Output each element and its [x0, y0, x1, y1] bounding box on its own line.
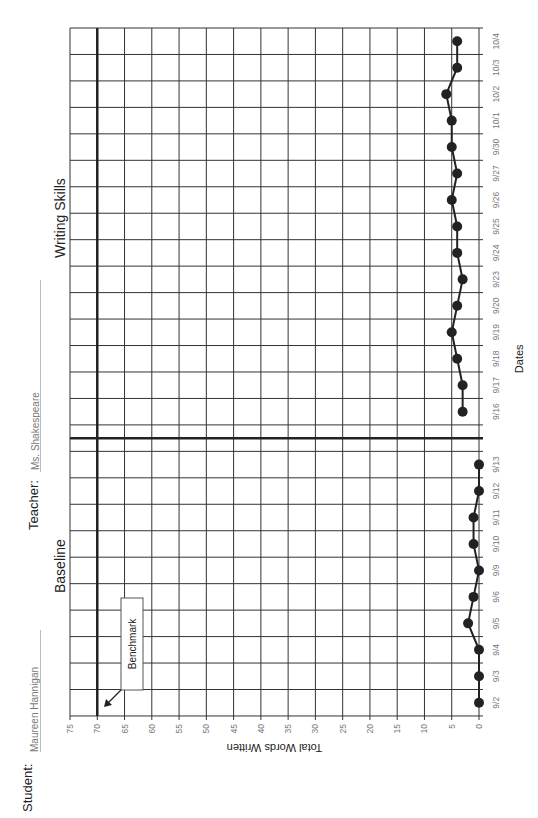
date-tick-label: 9/23	[491, 271, 501, 288]
data-point	[474, 460, 484, 470]
data-point	[458, 380, 468, 390]
y-axis-title: Total Words Written	[227, 742, 323, 754]
date-tick-label: 9/26	[491, 191, 501, 208]
value-tick-label: 75	[65, 724, 75, 734]
value-tick-label: 35	[283, 724, 293, 734]
date-tick-label: 9/19	[491, 324, 501, 341]
date-tick-label: 9/11	[491, 509, 501, 525]
data-point	[458, 274, 468, 284]
date-tick-label: 9/10	[491, 535, 501, 552]
value-tick-label: 50	[201, 724, 211, 734]
data-point	[474, 698, 484, 708]
value-tick-label: 0	[474, 724, 484, 729]
data-point	[469, 539, 479, 549]
value-tick-label: 40	[256, 724, 266, 734]
date-tick-label: 9/2	[491, 697, 501, 709]
date-tick-label: 9/16	[491, 403, 501, 420]
date-tick-label: 9/25	[491, 218, 501, 235]
date-tick-label: 9/6	[491, 591, 501, 603]
value-tick-label: 30	[310, 724, 320, 734]
date-tick-label: 9/17	[491, 377, 501, 394]
date-tick-label: 9/13	[491, 456, 501, 473]
date-tick-label: 9/5	[491, 617, 501, 629]
date-tick-label: 10/2	[491, 86, 501, 103]
x-axis-title: Dates	[513, 344, 525, 373]
date-tick-label: 9/3	[491, 670, 501, 682]
date-tick-label: 9/18	[491, 350, 501, 367]
date-tick-label: 10/4	[491, 33, 501, 50]
date-tick-label: 9/12	[491, 483, 501, 500]
data-point	[452, 354, 462, 364]
value-tick-label: 45	[229, 724, 239, 734]
value-tick-label: 10	[419, 724, 429, 734]
data-point	[474, 486, 484, 496]
data-point	[452, 221, 462, 231]
date-tick-label: 9/30	[491, 139, 501, 156]
date-tick-label: 9/4	[491, 644, 501, 656]
data-point	[441, 89, 451, 99]
date-tick-label: 10/3	[491, 59, 501, 76]
data-point	[463, 618, 473, 628]
data-point	[447, 195, 457, 205]
value-tick-label: 65	[120, 724, 130, 734]
data-point	[474, 645, 484, 655]
date-tick-label: 9/24	[491, 244, 501, 261]
data-point	[469, 592, 479, 602]
data-point	[452, 169, 462, 179]
value-tick-label: 15	[392, 724, 402, 734]
value-tick-label: 60	[147, 724, 157, 734]
words-written-chart: 05101520253035404550556065707510/410/310…	[0, 0, 538, 818]
data-point	[447, 327, 457, 337]
data-point	[469, 513, 479, 523]
benchmark-arrow	[108, 690, 121, 703]
date-tick-label: 9/9	[491, 564, 501, 576]
data-point	[452, 36, 462, 46]
data-point	[452, 63, 462, 73]
data-point	[452, 248, 462, 258]
data-point	[458, 407, 468, 417]
value-tick-label: 55	[174, 724, 184, 734]
data-point	[474, 671, 484, 681]
value-tick-label: 25	[338, 724, 348, 734]
data-point	[474, 565, 484, 575]
benchmark-label: Benchmark	[127, 618, 138, 670]
data-point	[447, 142, 457, 152]
date-tick-label: 9/27	[491, 165, 501, 182]
data-point	[452, 301, 462, 311]
value-tick-label: 5	[447, 724, 457, 729]
date-tick-label: 9/20	[491, 297, 501, 314]
date-tick-label: 10/1	[491, 112, 501, 129]
value-tick-label: 20	[365, 724, 375, 734]
data-point	[447, 116, 457, 126]
value-tick-label: 70	[92, 724, 102, 734]
